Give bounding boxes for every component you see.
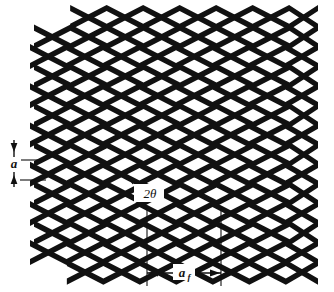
long-way-pitch-label: a xyxy=(179,265,186,280)
apex-angle-label: 2θ xyxy=(144,186,158,201)
figure-root: a 2θ a f xyxy=(0,0,334,292)
expanded-metal-mesh-diagram: a 2θ a f xyxy=(0,0,334,292)
strand-pitch-label: a xyxy=(11,156,18,171)
